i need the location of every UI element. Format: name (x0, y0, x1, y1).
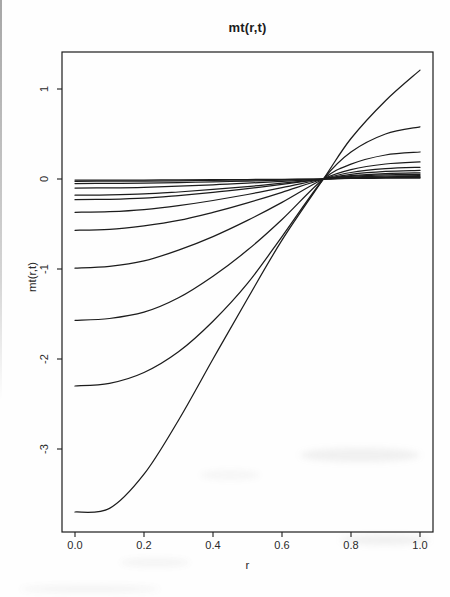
plot-page: mt(r,t) 0.00.20.40.60.81.010-1-2-3 r mt(… (0, 0, 450, 597)
x-tick-label: 0.0 (67, 539, 82, 551)
curve-c1 (75, 70, 420, 512)
curve-c12 (75, 178, 420, 180)
x-tick-label: 0.8 (343, 539, 358, 551)
x-tick-label: 0.6 (274, 539, 289, 551)
y-tick-label: -1 (38, 264, 50, 274)
x-tick-label: 0.2 (136, 539, 151, 551)
y-tick-label: -3 (38, 444, 50, 454)
x-tick-label: 1.0 (412, 539, 427, 551)
y-tick-label: -2 (38, 354, 50, 364)
y-tick-label: 1 (38, 86, 50, 92)
y-tick-label: 0 (38, 176, 50, 182)
chart-canvas: 0.00.20.40.60.81.010-1-2-3 (0, 0, 450, 597)
x-axis-label: r (62, 559, 433, 571)
x-tick-label: 0.4 (205, 539, 220, 551)
plot-frame (62, 52, 433, 532)
